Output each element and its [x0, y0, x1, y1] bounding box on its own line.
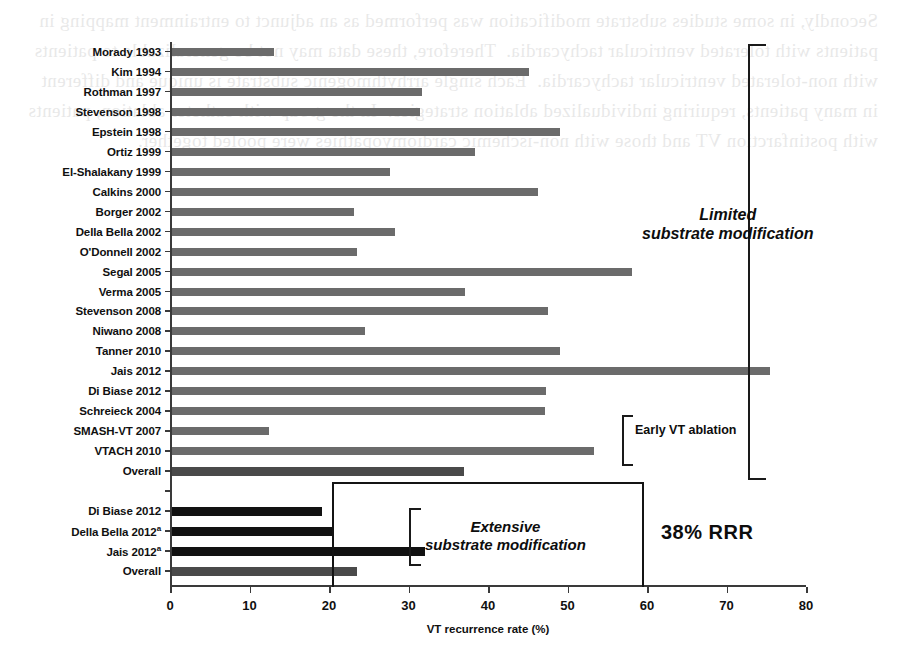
bar: [172, 68, 529, 76]
brace-limited-substrate-modification: [748, 44, 766, 480]
y-axis-label: VTACH 2010: [94, 445, 161, 457]
x-axis-tick: [488, 587, 490, 593]
bar-row: Morady 1993: [170, 42, 806, 62]
x-axis-tick-label: 50: [560, 598, 574, 613]
y-axis-tick: [165, 191, 170, 193]
y-axis-label: Overall: [123, 565, 161, 577]
y-axis-label: SMASH-VT 2007: [73, 425, 161, 437]
y-axis-tick: [165, 410, 170, 412]
bar: [172, 367, 770, 375]
y-axis-tick: [165, 390, 170, 392]
y-axis-tick: [165, 131, 170, 133]
y-axis-tick: [165, 171, 170, 173]
annotation-extensive-line1: Extensive: [425, 518, 586, 536]
x-axis-tick-label: 30: [401, 598, 415, 613]
y-axis-label: Della Bella 2002: [76, 226, 161, 238]
y-axis-label: Jais 2012a: [106, 544, 161, 558]
bar: [172, 427, 269, 435]
y-axis-tick: [165, 151, 170, 153]
annotation-limited-line2: substrate modification: [642, 225, 814, 244]
y-axis-tick: [165, 330, 170, 332]
y-axis-label: Schreieck 2004: [79, 405, 161, 417]
y-axis-tick: [165, 51, 170, 53]
bar-row: Tanner 2010: [170, 341, 806, 361]
y-axis-label: Di Biase 2012: [88, 385, 161, 397]
bar: [172, 168, 390, 176]
y-axis-tick: [165, 510, 170, 512]
y-axis-label: Borger 2002: [96, 206, 161, 218]
y-axis-label: Della Bella 2012a: [71, 524, 161, 538]
bar-row: Kim 1994: [170, 62, 806, 82]
y-axis-tick: [165, 450, 170, 452]
bar: [172, 208, 354, 216]
bar-row: Overall: [170, 461, 806, 481]
y-axis-tick: [165, 310, 170, 312]
bar-row: Calkins 2000: [170, 182, 806, 202]
bar: [172, 268, 632, 276]
x-axis-tick-label: 20: [322, 598, 336, 613]
bar: [172, 128, 560, 136]
annotation-early-vt-ablation: Early VT ablation: [635, 423, 736, 438]
bar: [172, 467, 464, 476]
bar: [172, 447, 594, 455]
bar-row: Ortiz 1999: [170, 142, 806, 162]
y-axis-label: El-Shalakany 1999: [62, 166, 161, 178]
vt-recurrence-figure: Morady 1993Kim 1994Rothman 1997Stevenson…: [0, 0, 904, 657]
x-axis-tick: [727, 587, 729, 593]
annotation-extensive-substrate-modification: Extensive substrate modification: [425, 518, 586, 553]
y-axis-label: Ortiz 1999: [107, 146, 161, 158]
bar-row: Stevenson 1998: [170, 102, 806, 122]
y-axis-label: Rothman 1997: [84, 86, 161, 98]
x-axis-tick-label: 0: [166, 598, 173, 613]
x-axis-tick-label: 40: [481, 598, 495, 613]
brace-early-vt-ablation: [622, 415, 633, 466]
bar: [172, 288, 465, 296]
y-axis-label: Jais 2012: [111, 365, 161, 377]
bar: [172, 108, 420, 116]
x-axis-tick-label: 60: [640, 598, 654, 613]
y-axis-tick: [165, 470, 170, 472]
y-axis-tick: [165, 91, 170, 93]
bar-row: Stevenson 2008: [170, 302, 806, 322]
y-axis-label: Segal 2005: [103, 266, 161, 278]
bar: [172, 407, 545, 415]
bar: [172, 327, 365, 335]
y-axis-tick: [165, 570, 170, 572]
bar-row: O'Donnell 2002: [170, 242, 806, 262]
bar-row: Schreieck 2004: [170, 401, 806, 421]
bar-row: Segal 2005: [170, 262, 806, 282]
y-axis-label: Morady 1993: [92, 46, 161, 58]
bar-row: Di Biase 2012: [170, 381, 806, 401]
y-axis-tick: [165, 211, 170, 213]
x-axis-title: VT recurrence rate (%): [427, 623, 550, 635]
annotation-limited-substrate-modification: Limited substrate modification: [642, 206, 814, 244]
annotation-extensive-line2: substrate modification: [425, 536, 586, 554]
annotation-relative-risk-reduction: 38% RRR: [661, 521, 753, 545]
bar: [172, 228, 395, 236]
bar-row: Jais 2012: [170, 361, 806, 381]
y-axis-tick: [165, 291, 170, 293]
y-axis-tick: [165, 430, 170, 432]
y-axis-tick: [165, 251, 170, 253]
y-axis-tick: [165, 271, 170, 273]
x-axis-tick: [170, 587, 172, 593]
bar-row: Verma 2005: [170, 282, 806, 302]
bar-row: El-Shalakany 1999: [170, 162, 806, 182]
y-axis-label: Niwano 2008: [92, 325, 161, 337]
x-axis-tick: [329, 587, 331, 593]
x-axis-tick: [806, 587, 808, 593]
bar: [172, 527, 332, 536]
bar-row: VTACH 2010: [170, 441, 806, 461]
y-axis-label: Epstein 1998: [92, 126, 161, 138]
y-axis-label: Tanner 2010: [96, 345, 161, 357]
y-axis-tick: [165, 370, 170, 372]
bar: [172, 567, 357, 576]
x-axis-tick: [250, 587, 252, 593]
y-axis-label: Overall: [123, 465, 161, 477]
bar: [172, 248, 357, 256]
x-axis-tick-label: 70: [719, 598, 733, 613]
y-axis-tick: [165, 231, 170, 233]
bar: [172, 347, 560, 355]
bar: [172, 387, 546, 395]
bar-row: Rothman 1997: [170, 82, 806, 102]
